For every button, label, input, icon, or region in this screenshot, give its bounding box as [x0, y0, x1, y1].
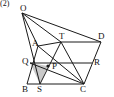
segment-A-C — [38, 46, 84, 84]
figure-canvas — [0, 0, 114, 97]
vertex-label-a: A — [32, 39, 39, 48]
vertex-label-t: T — [59, 32, 65, 41]
vertex-label-o: O — [20, 4, 27, 13]
point-marker-p — [46, 64, 49, 67]
vertex-label-b: B — [22, 85, 28, 94]
segment-group — [22, 13, 101, 84]
vertex-label-d: D — [98, 32, 105, 41]
vertex-label-c: C — [80, 85, 86, 94]
marked-point-group — [46, 64, 49, 67]
problem-number: (2) — [0, 0, 9, 8]
segment-A-T — [38, 42, 61, 46]
vertex-label-p: P — [52, 62, 57, 71]
vertex-label-q: Q — [22, 57, 29, 66]
vertex-label-s: S — [37, 85, 42, 94]
vertex-label-r: R — [94, 58, 100, 67]
geometry-figure: (2) OATDQPRBSC — [0, 0, 114, 97]
